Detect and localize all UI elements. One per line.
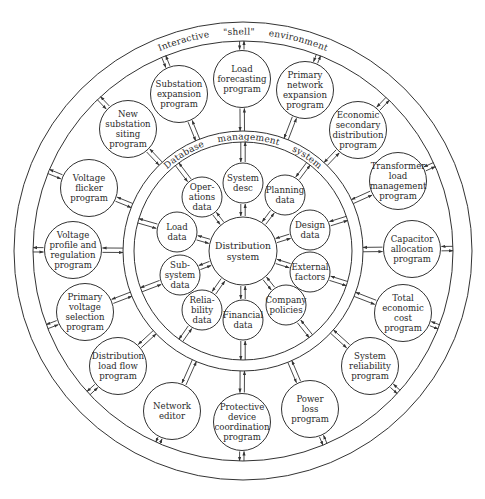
flow-arrow [198,236,210,240]
flow-arrow [430,326,438,329]
flow-arrow [424,163,434,167]
flow-arrow [90,388,98,395]
flow-arrow [147,152,159,165]
program-primary-network-expansion[interactable]: Primarynetworkexpansionprogram [277,62,334,119]
flow-arrow [324,150,336,163]
flow-arrow [431,322,439,325]
flow-arrow [139,219,158,224]
program-voltage-profile-regulation[interactable]: Voltageprofile andregulationprogram [45,222,102,279]
flow-arrow [166,56,170,66]
flow-arrow [276,264,290,268]
flow-arrow [186,362,196,385]
flow-arrow [324,435,327,443]
flow-arrow [319,437,322,445]
flow-arrow [331,220,348,225]
data-store-system-desc[interactable]: Systemdesc [223,163,263,203]
program-total-economic-cost[interactable]: Totaleconomiccostprogram [375,285,432,342]
distribution-system-node[interactable]: Distributionsystem [209,217,277,285]
flow-arrow [150,149,162,162]
distribution-system-diagram: Interactive "shell" environment Database… [0,0,485,499]
program-power-loss[interactable]: Powerlossprogram [282,381,339,438]
program-network-editor[interactable]: Networkeditor [144,383,201,440]
program-protective-device-coordination[interactable]: Protectivedevicecoordinationprogram [214,394,271,451]
flow-arrow [46,321,56,325]
flow-arrow [330,333,346,348]
program-economic-secondary-distribution[interactable]: Economicsecondarydistributionprogram [330,102,387,159]
program-new-substation-siting[interactable]: Newsubstationsitingprogram [100,101,157,158]
data-store-financial-data[interactable]: Financialdata [223,300,264,340]
flow-arrow [288,118,296,139]
flow-arrow [277,259,291,263]
data-store-reliability-data[interactable]: Relia-bilitydata [182,290,222,330]
data-store-label: Loaddata [166,222,188,242]
program-label: Systemreliabilityprogram [349,351,391,381]
flow-arrow [297,323,309,338]
flow-arrow [197,240,209,244]
data-store-external-factors[interactable]: Externalfactors [290,252,330,292]
program-transformer-load-management[interactable]: Transformerloadmanagementprogram [370,153,427,210]
flow-arrow [390,387,397,393]
program-label: Capacitorallocationprogram [391,234,435,264]
flow-arrow [199,261,210,265]
flow-arrow [353,195,372,203]
flow-arrow [179,326,188,339]
flow-arrow [162,57,166,67]
flow-arrow [301,320,313,335]
flow-arrow [329,280,346,285]
flow-arrow [87,384,95,391]
program-label: Substationexpansionprogram [156,79,203,109]
program-capacitor-allocation[interactable]: Capacitorallocationprogram [384,221,441,278]
flow-arrow [314,54,317,61]
flow-arrow [192,120,200,139]
flow-arrow [426,167,436,171]
flow-arrow [333,330,349,345]
flow-arrow [48,325,58,329]
flow-arrow [393,384,400,390]
flow-arrow [356,292,377,300]
data-store-label: Relia-bilitydata [189,295,214,325]
data-store-planning-data[interactable]: Planningdata [265,175,305,215]
flow-arrow [175,166,187,182]
program-voltage-flicker[interactable]: Voltageflickerprogram [61,160,118,217]
program-distribution-load-flow[interactable]: Distributionload flowprogram [90,338,147,395]
program-substation-expansion[interactable]: Substationexpansionprogram [151,66,208,123]
flow-arrow [331,276,348,281]
program-label: Primaryvoltageselectionprogram [65,292,105,333]
flow-arrow [141,334,156,348]
data-store-company-policies[interactable]: Companypolicies [266,285,307,325]
program-load-forecasting[interactable]: Loadforecastingprogram [214,51,271,108]
data-store-label: Externalfactors [291,262,328,282]
flow-arrow [276,234,290,238]
flow-arrow [182,360,192,383]
flow-arrow [138,331,153,345]
flow-arrow [351,191,370,199]
data-store-subsystem-data[interactable]: Sub-systemdata [160,255,200,295]
flow-arrow [216,281,225,294]
flow-arrow [329,216,346,221]
data-store-operations-data[interactable]: Oper-ationsdata [182,177,222,217]
flow-arrow [160,439,162,444]
data-store-load-data[interactable]: Loaddata [157,212,197,252]
flow-arrow [284,117,292,138]
flow-arrow [299,165,310,179]
flow-arrow [327,153,339,166]
flow-arrow [277,238,291,242]
flow-arrow [200,266,211,270]
program-label: Voltageflickerprogram [70,173,108,203]
flow-arrow [188,122,196,141]
flow-arrow [292,361,301,381]
flow-arrow [354,296,375,304]
flow-arrow [49,169,62,174]
flow-arrow [296,162,307,176]
program-system-reliability[interactable]: Systemreliabilityprogram [342,338,399,395]
flow-arrow [138,223,157,228]
flow-arrow [179,163,191,179]
flow-arrow [212,278,221,291]
program-primary-voltage-selection[interactable]: Primaryvoltageselectionprogram [57,284,114,341]
program-label: Primarynetworkexpansionprogram [283,70,327,111]
program-label: Economicsecondarydistributionprogram [333,110,384,151]
data-store-label: Oper-ationsdata [189,182,215,212]
data-store-design-data[interactable]: Designdata [290,210,330,250]
flow-arrow [156,437,158,442]
flow-arrow [183,329,192,342]
